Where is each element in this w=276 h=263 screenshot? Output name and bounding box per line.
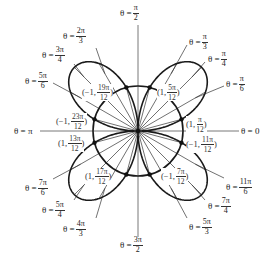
point-suffix: ): [84, 117, 87, 126]
ray-label-theta-3pi-over-4: θ = 3π4: [42, 46, 65, 64]
fraction: 11π6: [239, 178, 253, 196]
leader-line: [96, 188, 105, 218]
point-label-pt-1-5pi-12: (1, 5π12): [157, 84, 180, 101]
intersection-dot: [124, 172, 128, 176]
point-label-pt-neg1-11pi-12: (−1, 11π12): [186, 136, 217, 153]
fraction: 5π6: [38, 72, 48, 90]
axis-label-theta-3pi-over-2: θ = 3π2: [120, 236, 143, 254]
fraction: π2: [133, 4, 139, 22]
label-prefix: θ =: [42, 206, 54, 215]
fraction: π3: [202, 33, 208, 51]
axis-label-theta-pi: θ = π: [14, 127, 32, 136]
label-prefix: θ =: [120, 9, 132, 18]
fraction: 5π3: [202, 218, 212, 236]
fraction: π12: [196, 116, 204, 133]
label-prefix: θ =: [25, 184, 37, 193]
fraction: 11π12: [201, 136, 214, 153]
label-prefix: θ = π: [14, 127, 32, 136]
ray-label-theta-7pi-over-6: θ = 7π6: [25, 179, 48, 197]
label-prefix: θ =: [120, 241, 132, 250]
ray-285deg: [138, 131, 150, 174]
point-suffix: ): [177, 88, 180, 97]
ray-255deg: [126, 131, 138, 174]
label-prefix: θ =: [226, 183, 238, 192]
point-prefix: (−1,: [186, 140, 200, 149]
intersection-dot: [147, 172, 151, 176]
point-prefix: (1,: [58, 139, 67, 148]
ray-label-theta-7pi-over-4: θ = 7π4: [208, 197, 231, 215]
ray-label-theta-pi-over-3: θ = π3: [189, 33, 208, 51]
intersection-dot: [92, 117, 96, 121]
point-label-pt-1-17pi-12: (1, 17π12): [85, 168, 111, 185]
label-prefix: θ =: [226, 80, 238, 89]
point-prefix: (−1,: [82, 88, 96, 97]
leader-line: [195, 86, 224, 98]
origin-dot: [136, 129, 140, 133]
label-prefix: θ =: [42, 51, 54, 60]
point-suffix: ): [214, 140, 217, 149]
label-prefix: θ =: [63, 225, 75, 234]
label-prefix: θ = 0: [241, 127, 259, 136]
point-label-pt-neg1-23pi-12: (−1, 23π12): [56, 113, 87, 130]
fraction: π6: [239, 75, 245, 93]
ray-label-theta-4pi-over-3: θ = 4π3: [63, 220, 86, 238]
ray-label-theta-5pi-over-6: θ = 5π6: [25, 72, 48, 90]
polar-diagram: [0, 0, 276, 263]
ray-75deg: [138, 88, 150, 131]
leader-line: [171, 45, 187, 74]
ray-label-theta-11pi-over-6: θ = 11π6: [226, 178, 252, 196]
fraction: π4: [221, 50, 227, 68]
point-suffix: ): [110, 88, 113, 97]
ray-label-theta-5pi-over-3: θ = 5π3: [189, 218, 212, 236]
fraction: 3π4: [55, 46, 65, 64]
fraction: 7π12: [176, 168, 186, 185]
intersection-dot: [92, 140, 96, 144]
intersection-dot: [147, 85, 151, 89]
fraction: 3π2: [133, 236, 143, 254]
label-prefix: θ =: [189, 223, 201, 232]
point-label-pt-1-13pi-12: (1, 13π12): [58, 135, 84, 152]
point-suffix: ): [82, 139, 85, 148]
leader-line: [171, 188, 187, 218]
point-label-pt-neg1-7pi-12: (−1, 7π12): [161, 168, 188, 185]
leader-line: [195, 164, 224, 178]
fraction: 7π6: [38, 179, 48, 197]
leader-line: [53, 164, 81, 179]
point-suffix: ): [204, 120, 207, 129]
intersection-dot: [124, 85, 128, 89]
fraction: 7π4: [221, 197, 231, 215]
ray-label-theta-2pi-over-3: θ = 2π3: [63, 27, 86, 45]
fraction: 23π12: [71, 113, 84, 130]
fraction: 5π12: [167, 84, 177, 101]
axis-label-theta-pi-over-2: θ = π2: [120, 4, 139, 22]
fraction: 19π12: [97, 84, 110, 101]
ray-345deg: [138, 131, 181, 143]
ray-label-theta-pi-over-6: θ = π6: [226, 75, 245, 93]
label-prefix: θ =: [189, 38, 201, 47]
label-prefix: θ =: [63, 32, 75, 41]
ray-label-theta-5pi-over-4: θ = 5π4: [42, 201, 65, 219]
label-prefix: θ =: [25, 77, 37, 86]
fraction: 2π3: [76, 27, 86, 45]
point-suffix: ): [109, 172, 112, 181]
ray-195deg: [95, 131, 138, 143]
point-suffix: ): [186, 172, 189, 181]
point-prefix: (1,: [85, 172, 94, 181]
axis-label-theta-0: θ = 0: [241, 127, 259, 136]
fraction: 13π12: [68, 135, 81, 152]
point-label-pt-neg1-19pi-12: (−1, 19π12): [82, 84, 113, 101]
label-prefix: θ =: [208, 202, 220, 211]
point-prefix: (−1,: [56, 117, 70, 126]
fraction: 5π4: [55, 201, 65, 219]
leader-line: [96, 48, 105, 74]
ray-165deg: [95, 119, 138, 131]
point-prefix: (1,: [157, 88, 166, 97]
ray-105deg: [126, 88, 138, 131]
leader-line: [53, 83, 81, 98]
ray-15deg: [138, 119, 181, 131]
intersection-dot: [179, 140, 183, 144]
intersection-dot: [179, 117, 183, 121]
point-label-pt-1-pi-12: (1, π12): [186, 116, 207, 133]
ray-label-theta-pi-over-4: θ = π4: [208, 50, 227, 68]
point-prefix: (1,: [186, 120, 195, 129]
